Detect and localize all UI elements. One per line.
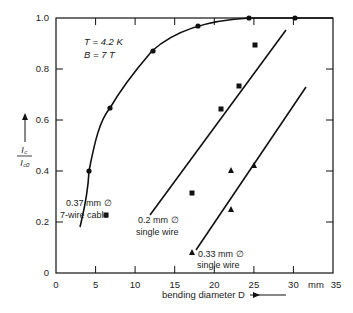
- x-tick-label: 25: [249, 279, 260, 290]
- x-axis-label: bending diameter D: [162, 289, 286, 300]
- cable-fit-curve: [80, 18, 333, 227]
- wire-033-label-line1: 0.33 mm ∅: [198, 249, 244, 259]
- y-tick-label: 0: [44, 267, 49, 278]
- x-tick-label: 30: [288, 279, 299, 290]
- cable-label-line2: 7-wire cable: [60, 210, 109, 220]
- cable-label-line1: 0.37 mm ∅: [66, 198, 112, 208]
- temperature-annotation: T = 4.2 K: [84, 36, 123, 47]
- y-tick-label: 0.4: [36, 165, 49, 176]
- y-label-denominator: I꜀₀: [20, 158, 30, 168]
- arrow-up-icon: [22, 113, 28, 120]
- x-label-text: bending diameter D: [162, 289, 245, 300]
- x-tick-label: 35: [331, 279, 342, 290]
- chart: 0 5 10 15 20 25 30 35 mm 0 0.2 0.4 0.6 0…: [0, 0, 353, 313]
- x-tick-label: 5: [93, 279, 98, 290]
- wire-02-label-line2: single wire: [136, 227, 179, 237]
- wire-02-points: [104, 43, 258, 218]
- y-label-numerator: I꜀: [21, 145, 28, 155]
- field-annotation: B = 7 T: [84, 49, 116, 60]
- x-tick-label: 10: [130, 279, 141, 290]
- arrow-right-icon: [253, 292, 260, 298]
- y-tick-label: 0.2: [36, 216, 49, 227]
- x-ticks: [96, 18, 294, 273]
- wire-033-fit-line: [196, 87, 306, 250]
- x-unit: mm: [308, 279, 324, 290]
- y-axis-label: I꜀ I꜀₀: [17, 113, 32, 168]
- y-tick-label: 1.0: [36, 12, 49, 23]
- y-tick-label: 0.6: [36, 114, 49, 125]
- y-tick-labels: 0 0.2 0.4 0.6 0.8 1.0: [36, 12, 49, 278]
- y-tick-label: 0.8: [36, 63, 49, 74]
- wire-033-label-line2: single wire: [197, 260, 240, 270]
- x-tick-label: 0: [53, 279, 58, 290]
- wire-02-fit-line: [150, 30, 286, 215]
- wire-02-label-line1: 0.2 mm ∅: [138, 215, 179, 225]
